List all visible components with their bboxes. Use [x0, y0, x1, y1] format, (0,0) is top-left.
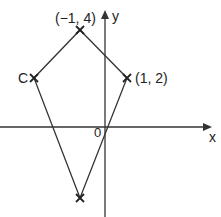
point-right-cross-icon — [123, 74, 131, 82]
y-axis-label: y — [112, 9, 119, 23]
y-axis-arrow-icon — [101, 10, 109, 19]
x-axis-label: x — [209, 130, 216, 144]
origin-label: 0 — [94, 126, 101, 139]
kite-diagram — [0, 0, 221, 217]
point-bottom-cross-icon — [76, 194, 84, 202]
kite-outline — [34, 30, 127, 198]
point-top-label: (−1, 4) — [55, 11, 96, 25]
point-right-label: (1, 2) — [135, 71, 168, 85]
point-c-cross-icon — [30, 74, 38, 82]
point-c-label: C — [18, 71, 28, 85]
point-top-cross-icon — [76, 26, 84, 34]
